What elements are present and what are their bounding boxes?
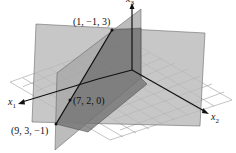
point-9-3-neg1 bbox=[55, 123, 58, 126]
x2-subscript: 2 bbox=[215, 117, 219, 125]
point-1-neg1-3 bbox=[111, 29, 114, 32]
label-point-1-neg1-3: (1, −1, 3) bbox=[73, 17, 110, 27]
label-x2-axis: x2 bbox=[211, 112, 219, 125]
point-7-2-0 bbox=[69, 99, 72, 102]
x3-subscript: 3 bbox=[130, 0, 134, 7]
label-x3-axis: x3 bbox=[126, 0, 134, 7]
label-x1-axis: x1 bbox=[8, 97, 16, 110]
x1-subscript: 1 bbox=[12, 102, 16, 110]
label-point-7-2-0: (7, 2, 0) bbox=[73, 96, 105, 106]
label-point-9-3-neg1: (9, 3, −1) bbox=[11, 126, 48, 136]
x1-axis-arrow bbox=[18, 99, 25, 105]
